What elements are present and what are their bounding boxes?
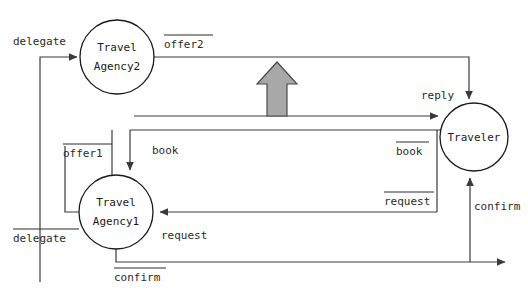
edge-label-book-left: book [152,144,179,157]
edge-label-request-right: request [384,192,434,208]
edge-label-book-right-text: book [396,145,423,158]
up-arrow-highlight-icon [257,62,297,116]
edge-request-bottom [116,249,505,262]
edge-label-delegate-top-text: delegate [13,35,66,48]
node-travel-agency1[interactable]: Travel Agency1 [79,175,153,249]
edge-label-offer2-text: offer2 [164,38,204,51]
node-travel-agency1-label-line1: Travel [96,196,136,209]
edge-label-offer2: offer2 [164,35,213,51]
node-traveler[interactable]: Traveler [440,103,508,171]
diagram-canvas: Travel Agency2 Travel Agency1 Traveler d… [0,0,528,297]
edge-delegate-top [40,57,77,282]
edge-label-offer1-text: offer1 [63,147,103,160]
node-travel-agency1-label-line2: Agency1 [93,215,139,228]
node-travel-agency2[interactable]: Travel Agency2 [80,20,154,94]
edge-label-confirm-bottom: confirm [114,268,166,284]
edge-label-book-left-text: book [152,144,179,157]
edge-label-request-right-text: request [384,195,430,208]
edge-label-reply: reply [421,89,454,102]
edge-label-confirm-right: confirm [474,200,521,213]
node-travel-agency2-label-line2: Agency2 [94,60,140,73]
edge-label-book-right: book [396,142,429,158]
edge-label-offer1: offer1 [63,144,112,160]
edge-label-delegate-top: delegate [13,35,66,48]
edge-label-delegate-bottom-text: delegate [13,232,66,245]
node-travel-agency2-label-line1: Travel [97,41,137,54]
edge-label-delegate-bottom: delegate [13,229,79,245]
edge-label-confirm-bottom-text: confirm [114,271,161,284]
edge-label-request-bottom: request [161,229,207,242]
node-traveler-label: Traveler [448,131,501,144]
diagram-svg: Travel Agency2 Travel Agency1 Traveler d… [0,0,528,297]
edge-label-reply-text: reply [421,89,454,102]
edge-label-request-bottom-text: request [161,229,207,242]
edge-label-confirm-right-text: confirm [474,200,521,213]
